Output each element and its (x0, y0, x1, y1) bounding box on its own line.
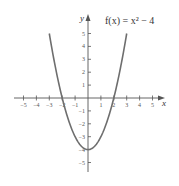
axes (14, 14, 165, 172)
y-tick-label: −2 (79, 121, 85, 127)
y-tick-label: 2 (82, 69, 85, 75)
y-tick-label: −3 (79, 134, 85, 140)
x-tick-label: −4 (33, 102, 39, 108)
parabola-chart: −5−4−3−2−112345−5−4−3−2−112345 y x f(x) … (0, 0, 179, 186)
x-tick-label: −3 (46, 102, 52, 108)
y-tick-label: −1 (79, 108, 85, 114)
x-tick-label: 5 (151, 102, 154, 108)
x-tick-label: 1 (99, 102, 102, 108)
y-tick-label: 5 (82, 31, 85, 37)
y-axis-label: y (79, 13, 84, 23)
y-tick-label: −5 (79, 160, 85, 166)
chart-title: f(x) = x² − 4 (105, 15, 154, 27)
x-tick-label: −1 (72, 102, 78, 108)
x-tick-label: 4 (138, 102, 141, 108)
x-tick-label: 3 (125, 102, 128, 108)
y-axis-arrow-icon (86, 14, 91, 21)
x-tick-label: −5 (20, 102, 26, 108)
y-tick-label: 4 (82, 43, 85, 49)
x-axis-label: x (161, 98, 166, 108)
y-tick-label: 3 (82, 56, 85, 62)
y-tick-label: 1 (82, 82, 85, 88)
